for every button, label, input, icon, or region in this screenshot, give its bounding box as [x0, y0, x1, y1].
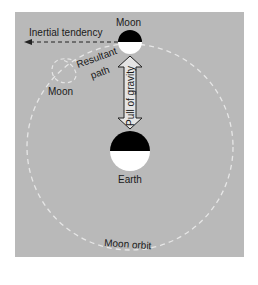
earth-icon	[110, 131, 150, 171]
moon-icon	[118, 30, 142, 54]
resultant-label: Resultant	[75, 45, 119, 70]
moon-left-label: Moon	[48, 87, 73, 97]
orbit-label: Moon orbit	[104, 237, 152, 251]
inertial-tendency-label: Inertial tendency	[29, 28, 102, 38]
moon-top-label: Moon	[116, 18, 141, 28]
gravity-label: Pull of gravity	[125, 66, 136, 126]
resultant-path-loop	[52, 59, 78, 83]
inertial-arrow-head	[24, 39, 32, 45]
diagram-graphics: Pull of gravity Resultant path Moon orbi…	[0, 0, 258, 285]
earth-label: Earth	[118, 175, 142, 185]
path-label: path	[89, 64, 111, 81]
